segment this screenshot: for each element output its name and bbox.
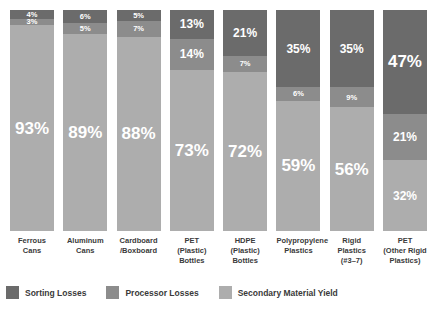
bar-segment: 47% (383, 10, 427, 114)
bar-column: 35%6%59% (276, 10, 320, 231)
segment-value-label: 59% (281, 157, 315, 174)
bar-column: 35%9%56% (330, 10, 374, 231)
category-label-line: (Plastic) (170, 246, 214, 256)
segment-value-label: 6% (80, 13, 91, 21)
bar-segment: 7% (223, 56, 267, 71)
bar-stack: 35%6%59% (276, 10, 320, 231)
category-label-line: (Other Rigid (383, 246, 427, 256)
legend-swatch-icon (6, 286, 19, 299)
category-axis: FerrousCansAluminumCansCardboard/Boxboar… (10, 236, 427, 266)
category-label-line: Bottles (223, 256, 267, 266)
segment-value-label: 5% (133, 12, 144, 20)
category-label-line: PET (170, 236, 214, 246)
category-label: FerrousCans (10, 236, 54, 266)
bar-segment: 6% (276, 87, 320, 100)
bar-segment: 88% (117, 37, 161, 231)
segment-value-label: 89% (68, 124, 102, 141)
segment-value-label: 3% (27, 19, 38, 26)
segment-value-label: 21% (233, 27, 257, 39)
legend-swatch-icon (106, 286, 119, 299)
bar-stack: 5%7%88% (117, 10, 161, 231)
bar-segment: 13% (170, 10, 214, 39)
segment-value-label: 9% (346, 94, 357, 102)
category-label-line: Plastics (330, 246, 374, 256)
segment-value-label: 88% (122, 125, 156, 142)
category-label-line: Rigid (330, 236, 374, 246)
bar-segment: 72% (223, 72, 267, 231)
category-label: HDPE(Plastic)Bottles (223, 236, 267, 266)
segment-value-label: 7% (240, 60, 251, 68)
bar-stack: 21%7%72% (223, 10, 267, 231)
segment-value-label: 35% (286, 43, 310, 55)
segment-value-label: 4% (27, 11, 38, 19)
bar-segment: 35% (276, 10, 320, 87)
segment-value-label: 14% (180, 48, 204, 60)
chart-legend: Sorting LossesProcessor LossesSecondary … (6, 286, 358, 299)
bar-segment: 6% (63, 10, 107, 23)
category-label-line: Aluminum (63, 236, 107, 246)
category-label-line: Cardboard (117, 236, 161, 246)
bar-segment: 73% (170, 70, 214, 231)
segment-value-label: 13% (180, 18, 204, 30)
stacked-bar-chart: 4%3%93%6%5%89%5%7%88%13%14%73%21%7%72%35… (0, 0, 437, 313)
bar-segment: 9% (330, 87, 374, 107)
bar-segment: 3% (10, 19, 54, 26)
category-label-line: PET (383, 236, 427, 246)
segment-value-label: 73% (175, 142, 209, 159)
legend-swatch-icon (219, 286, 232, 299)
segment-value-label: 32% (393, 190, 417, 202)
category-label: Cardboard/Boxboard (117, 236, 161, 266)
category-label: PET(Other RigidPlastics) (383, 236, 427, 266)
category-label-line: (#3–7) (330, 256, 374, 266)
bar-column: 5%7%88% (117, 10, 161, 231)
category-label: AluminumCans (63, 236, 107, 266)
bar-column: 13%14%73% (170, 10, 214, 231)
segment-value-label: 47% (388, 53, 422, 70)
bar-segment: 89% (63, 34, 107, 231)
bar-segment: 32% (383, 160, 427, 231)
category-label-line: Polypropylene (276, 236, 320, 246)
bar-column: 47%21%32% (383, 10, 427, 231)
bar-segment: 4% (10, 10, 54, 19)
bar-segment: 59% (276, 101, 320, 231)
category-label-line: Bottles (170, 256, 214, 266)
category-label-line: /Boxboard (117, 246, 161, 256)
category-label: PET(Plastic)Bottles (170, 236, 214, 266)
bar-column: 4%3%93% (10, 10, 54, 231)
plot-area: 4%3%93%6%5%89%5%7%88%13%14%73%21%7%72%35… (10, 10, 427, 231)
segment-value-label: 21% (393, 131, 417, 143)
segment-value-label: 93% (15, 120, 49, 137)
bar-stack: 13%14%73% (170, 10, 214, 231)
bar-segment: 5% (117, 10, 161, 21)
bar-segment: 93% (10, 25, 54, 231)
bar-stack: 47%21%32% (383, 10, 427, 231)
segment-value-label: 6% (293, 90, 304, 98)
legend-label: Sorting Losses (25, 288, 86, 298)
bar-stack: 4%3%93% (10, 10, 54, 231)
category-label-line: Plastics) (383, 256, 427, 266)
legend-item: Processor Losses (106, 286, 198, 299)
bar-segment: 21% (223, 10, 267, 56)
bar-column: 21%7%72% (223, 10, 267, 231)
segment-value-label: 56% (335, 161, 369, 178)
category-label-line: HDPE (223, 236, 267, 246)
category-label-line: Plastics (276, 246, 320, 256)
segment-value-label: 35% (340, 43, 364, 55)
category-label-line: (Plastic) (223, 246, 267, 256)
category-label: PolypropylenePlastics (276, 236, 320, 266)
segment-value-label: 5% (80, 25, 91, 33)
category-label: RigidPlastics(#3–7) (330, 236, 374, 266)
legend-item: Sorting Losses (6, 286, 86, 299)
legend-label: Secondary Material Yield (238, 288, 338, 298)
category-label-line: Cans (63, 246, 107, 256)
bar-segment: 35% (330, 10, 374, 87)
bar-stack: 6%5%89% (63, 10, 107, 231)
category-label-line: Cans (10, 246, 54, 256)
bar-segment: 5% (63, 23, 107, 34)
segment-value-label: 72% (228, 143, 262, 160)
bar-stack: 35%9%56% (330, 10, 374, 231)
category-label-line: Ferrous (10, 236, 54, 246)
bar-segment: 14% (170, 39, 214, 70)
bar-segment: 21% (383, 114, 427, 160)
bar-segment: 56% (330, 107, 374, 231)
